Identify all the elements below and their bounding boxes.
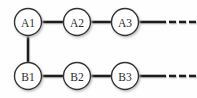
node-label-B1: B1 xyxy=(21,71,35,83)
node-B2[interactable]: B2 xyxy=(64,63,91,90)
node-B1[interactable]: B1 xyxy=(15,63,42,90)
node-label-A1: A1 xyxy=(21,17,35,29)
node-label-B2: B2 xyxy=(70,71,84,83)
node-A3[interactable]: A3 xyxy=(112,9,139,36)
node-A1[interactable]: A1 xyxy=(15,9,42,36)
ellipsis-bottom-row xyxy=(169,75,196,78)
ellipsis-top-row xyxy=(169,21,196,24)
node-A2[interactable]: A2 xyxy=(64,9,91,36)
top-row-nodes: A1A2A3 xyxy=(15,9,139,36)
node-label-B3: B3 xyxy=(118,71,132,83)
node-label-A3: A3 xyxy=(118,17,132,29)
bottom-row-nodes: B1B2B3 xyxy=(15,63,139,90)
ellipsis-dash-1 xyxy=(169,75,176,78)
node-label-A2: A2 xyxy=(70,17,84,29)
ellipsis-dash-2 xyxy=(179,21,186,24)
ellipsis-dash-1 xyxy=(169,21,176,24)
graph-diagram: A1A2A3 B1B2B3 xyxy=(0,0,197,98)
ellipsis-dash-2 xyxy=(179,75,186,78)
ellipsis-dash-3 xyxy=(189,21,196,24)
node-B3[interactable]: B3 xyxy=(112,63,139,90)
diagram-canvas: A1A2A3 B1B2B3 xyxy=(0,0,197,98)
ellipsis-dash-3 xyxy=(189,75,196,78)
